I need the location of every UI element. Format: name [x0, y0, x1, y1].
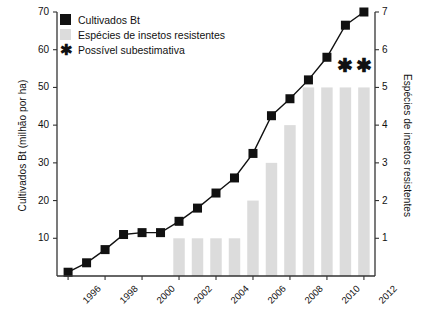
data-point-marker-2003 [193, 204, 202, 213]
data-point-marker-2010 [322, 53, 331, 62]
bar-2011 [340, 87, 351, 276]
data-point-marker-1999 [119, 230, 128, 239]
y-right-tick-label-4: 4 [382, 119, 406, 130]
y-left-tick-label-10: 10 [25, 232, 49, 243]
y-right-tick-label-3: 3 [382, 157, 406, 168]
data-point-marker-2009 [304, 75, 313, 84]
asterisks-group: ✱✱ [337, 55, 371, 76]
y-left-tick-label-70: 70 [25, 6, 49, 17]
bar-2012 [358, 87, 369, 276]
data-point-marker-2007 [267, 111, 276, 120]
y-right-tick-label-2: 2 [382, 195, 406, 206]
data-point-marker-2001 [156, 228, 165, 237]
bar-2010 [321, 87, 332, 276]
bar-2004 [210, 238, 221, 276]
y-right-tick-label-6: 6 [382, 44, 406, 55]
y-left-tick-label-40: 40 [25, 119, 49, 130]
line-group [68, 12, 364, 272]
asterisk-icon-2012: ✱ [356, 55, 372, 76]
data-point-marker-2011 [341, 21, 350, 30]
chart-container: Cultivados Bt (milhão por ha) Espécies d… [0, 0, 431, 322]
data-point-marker-1998 [101, 245, 110, 254]
data-point-marker-2012 [359, 8, 368, 17]
y-right-tick-label-5: 5 [382, 81, 406, 92]
y-right-tick-label-1: 1 [382, 232, 406, 243]
data-point-marker-2002 [175, 217, 184, 226]
data-point-marker-2000 [138, 228, 147, 237]
bar-2007 [266, 163, 277, 276]
bar-2003 [192, 238, 203, 276]
data-point-marker-2005 [230, 173, 239, 182]
y-left-tick-label-30: 30 [25, 157, 49, 168]
plot-area: ✱✱ [0, 0, 431, 322]
y-left-tick-label-60: 60 [25, 44, 49, 55]
y-right-tick-label-7: 7 [382, 6, 406, 17]
data-point-marker-2006 [248, 149, 257, 158]
line-path-cultivados-bt [68, 12, 364, 272]
y-left-tick-label-50: 50 [25, 81, 49, 92]
data-point-marker-2008 [285, 94, 294, 103]
y-left-tick-label-20: 20 [25, 195, 49, 206]
bar-2006 [247, 201, 258, 276]
bar-2008 [284, 125, 295, 276]
bar-2005 [229, 238, 240, 276]
data-point-marker-1997 [82, 258, 91, 267]
bar-2009 [303, 87, 314, 276]
bar-2002 [173, 238, 184, 276]
data-point-marker-2004 [212, 189, 221, 198]
asterisk-icon-2011: ✱ [337, 55, 353, 76]
